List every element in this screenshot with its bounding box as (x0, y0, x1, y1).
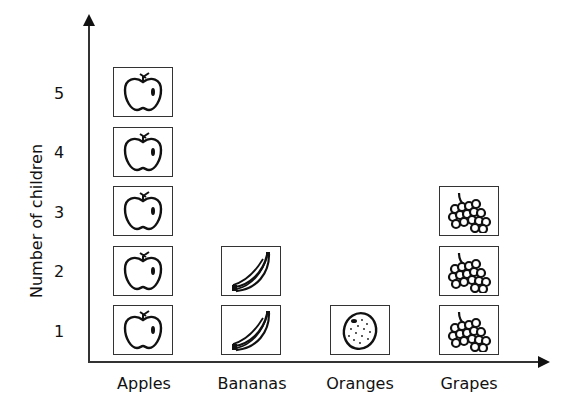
apple-pict-3 (113, 186, 173, 236)
y-axis-label: Number of children (27, 144, 46, 298)
apple-icon (119, 308, 167, 352)
y-tick-5: 5 (52, 84, 66, 103)
grape-pict-1 (439, 305, 499, 355)
banana-icon (227, 249, 275, 293)
grape-pict-3 (439, 186, 499, 236)
x-axis-arrow-icon (538, 356, 550, 368)
y-axis-arrow-icon (83, 14, 95, 26)
y-tick-2: 2 (52, 262, 66, 281)
apple-icon (119, 249, 167, 293)
orange-pict-1 (330, 305, 390, 355)
apple-icon (119, 130, 167, 174)
apple-pict-4 (113, 127, 173, 177)
banana-icon (227, 308, 275, 352)
x-axis (88, 361, 540, 363)
grape-icon (445, 308, 493, 352)
x-tick-oranges: Oranges (315, 374, 405, 393)
apple-pict-5 (113, 67, 173, 117)
y-axis (88, 24, 90, 362)
y-tick-4: 4 (52, 143, 66, 162)
grape-pict-2 (439, 246, 499, 296)
x-tick-bananas: Bananas (207, 374, 297, 393)
x-tick-apples: Apples (99, 374, 189, 393)
y-tick-1: 1 (52, 322, 66, 341)
x-tick-grapes: Grapes (424, 374, 514, 393)
apple-icon (119, 189, 167, 233)
apple-icon (119, 70, 167, 114)
apple-pict-2 (113, 246, 173, 296)
grape-icon (445, 249, 493, 293)
y-tick-3: 3 (52, 203, 66, 222)
orange-icon (336, 308, 384, 352)
apple-pict-1 (113, 305, 173, 355)
banana-pict-2 (221, 246, 281, 296)
banana-pict-1 (221, 305, 281, 355)
grape-icon (445, 189, 493, 233)
